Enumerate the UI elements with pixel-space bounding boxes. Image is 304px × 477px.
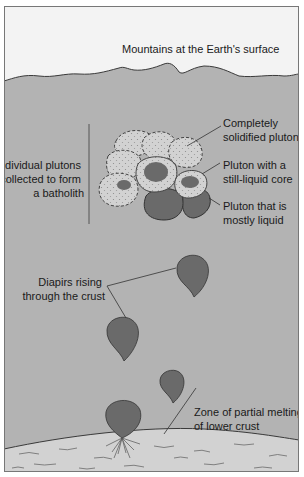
pluton-solid (99, 173, 138, 206)
label-surface: Mountains at the Earth's surface (122, 43, 279, 55)
liquid-core (144, 162, 168, 182)
liquid-core (117, 180, 131, 190)
liquid-core (181, 176, 199, 188)
batholith-diagram: Mountains at the Earth's surface Individ… (4, 6, 299, 472)
pluton-cluster (99, 131, 210, 220)
diagram-frame: Mountains at the Earth's surface Individ… (4, 6, 299, 472)
